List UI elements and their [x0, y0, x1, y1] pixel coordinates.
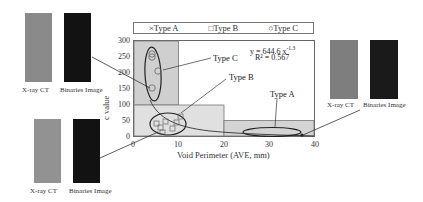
caption-binaries: Binaries Image: [60, 86, 103, 94]
caption-xray-ct: X-ray CT: [327, 101, 354, 109]
y-tick: 100: [108, 100, 130, 109]
y-tick: 50: [108, 116, 130, 125]
x-tick: 40: [305, 140, 325, 149]
xray-ct-image-type-c: [25, 13, 52, 82]
y-tick: 300: [108, 36, 130, 45]
r-squared: R² = 0.567: [255, 53, 289, 63]
binary-image-type-b: [73, 119, 100, 183]
caption-xray-ct: X-ray CT: [22, 86, 49, 94]
y-tick: 250: [108, 52, 130, 61]
x-tick: 0: [123, 140, 143, 149]
xray-ct-image-type-b: [34, 119, 61, 183]
y-axis-title: c value: [101, 96, 111, 120]
y-tick: 150: [108, 84, 130, 93]
binary-image-type-a: [370, 40, 398, 99]
x-tick: 10: [168, 140, 188, 149]
label-type-a: Type A: [270, 89, 295, 99]
label-type-c: Type C: [213, 53, 238, 63]
x-tick: 30: [259, 140, 279, 149]
caption-binaries: Binaries Image: [69, 187, 112, 195]
label-type-b: Type B: [229, 72, 254, 82]
xray-ct-image-type-a: [330, 40, 358, 99]
y-tick: 200: [108, 68, 130, 77]
binary-image-type-c: [64, 13, 91, 82]
x-axis-title: Void Perimeter (AVE, mm): [177, 150, 270, 160]
x-tick: 20: [214, 140, 234, 149]
caption-binaries: Binaries Image: [363, 101, 406, 109]
caption-xray-ct: X-ray CT: [30, 187, 57, 195]
region-type-a: [224, 121, 314, 137]
